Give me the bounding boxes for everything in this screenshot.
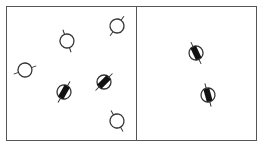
filled-circle-symbol — [198, 82, 218, 109]
filled-circle-symbol — [91, 69, 118, 96]
symbol-layer — [0, 0, 260, 150]
filled-circle-symbol — [185, 39, 208, 67]
filled-circle-symbol — [52, 78, 76, 106]
open-circle-symbol — [104, 12, 129, 40]
open-circle-symbol — [56, 27, 77, 54]
open-circle-symbol — [11, 59, 38, 80]
open-circle-symbol — [105, 107, 129, 135]
